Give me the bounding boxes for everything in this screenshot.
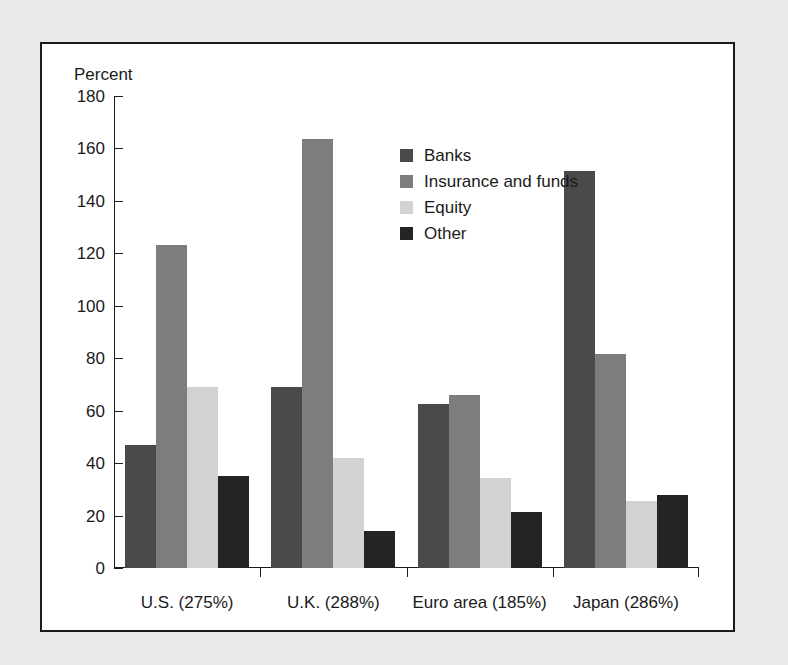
legend-item: Other <box>400 220 578 246</box>
bar <box>271 387 302 568</box>
x-axis-category-label: Euro area (185%) <box>413 594 547 611</box>
x-axis-group-tick <box>553 568 554 577</box>
legend-swatch-icon <box>400 149 413 162</box>
bar-group: U.K. (288%) <box>260 96 406 568</box>
y-axis-tick-label: 180 <box>77 88 105 105</box>
y-axis-tick-label: 80 <box>86 350 105 367</box>
bar-group-bars <box>114 96 260 568</box>
figure-root: Percent 020406080100120140160180 U.S. (2… <box>0 0 788 665</box>
bar <box>449 395 480 568</box>
y-axis-title: Percent <box>74 66 133 83</box>
x-axis-category-label: U.K. (288%) <box>287 594 380 611</box>
bar <box>595 354 626 568</box>
legend-item-label: Banks <box>424 147 471 164</box>
bar <box>480 478 511 568</box>
bar <box>156 245 187 568</box>
bar <box>511 512 542 568</box>
legend-item-label: Equity <box>424 199 471 216</box>
y-axis-tick-label: 140 <box>77 192 105 209</box>
bar <box>218 476 249 568</box>
x-axis-category-label: Japan (286%) <box>573 594 679 611</box>
legend-item-label: Other <box>424 225 467 242</box>
bar <box>364 531 395 568</box>
bar <box>187 387 218 568</box>
legend-swatch-icon <box>400 201 413 214</box>
bar <box>333 458 364 568</box>
y-axis-tick-label: 0 <box>96 560 105 577</box>
bar <box>418 404 449 568</box>
x-axis-group-tick <box>260 568 261 577</box>
y-axis-tick-label: 60 <box>86 402 105 419</box>
x-axis-group-tick <box>698 568 699 577</box>
bar <box>302 139 333 568</box>
legend: BanksInsurance and fundsEquityOther <box>400 142 578 246</box>
bar-group-bars <box>260 96 406 568</box>
y-axis-tick-label: 160 <box>77 140 105 157</box>
chart-panel: Percent 020406080100120140160180 U.S. (2… <box>40 42 735 632</box>
legend-item-label: Insurance and funds <box>424 173 578 190</box>
bar-group: U.S. (275%) <box>114 96 260 568</box>
y-axis-tick-label: 120 <box>77 245 105 262</box>
legend-swatch-icon <box>400 227 413 240</box>
legend-item: Insurance and funds <box>400 168 578 194</box>
legend-swatch-icon <box>400 175 413 188</box>
bar <box>657 495 688 568</box>
legend-item: Equity <box>400 194 578 220</box>
bar <box>626 501 657 568</box>
legend-item: Banks <box>400 142 578 168</box>
y-axis-tick-label: 40 <box>86 455 105 472</box>
bar <box>125 445 156 568</box>
y-axis-tick-mark <box>114 568 123 569</box>
y-axis-tick-label: 100 <box>77 297 105 314</box>
x-axis-group-tick <box>407 568 408 577</box>
y-axis-tick-label: 20 <box>86 507 105 524</box>
x-axis-category-label: U.S. (275%) <box>141 594 234 611</box>
